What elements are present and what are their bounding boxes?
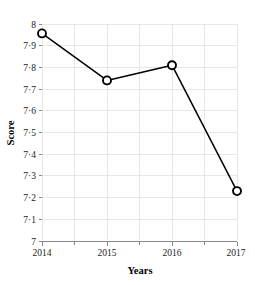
y-tick-label-7-3: 7·3 xyxy=(23,171,36,181)
y-tick-label-8: 8 xyxy=(31,20,36,30)
y-tick-label-7-7: 7·7 xyxy=(23,85,36,95)
y-tick-label-7-9: 7·9 xyxy=(23,41,36,51)
data-point-2016 xyxy=(168,61,176,69)
y-tick-label-7-2: 7·2 xyxy=(23,193,36,203)
y-axis-tick-labels: 8 7·9 7·8 7·7 7·6 7·5 7·4 7·3 7·2 7·1 7 xyxy=(23,20,36,247)
line-chart: 8 7·9 7·8 7·7 7·6 7·5 7·4 7·3 7·2 7·1 7 … xyxy=(0,0,255,285)
x-axis-tickmarks xyxy=(42,242,237,247)
data-point-2014 xyxy=(38,29,46,37)
y-tick-label-7-4: 7·4 xyxy=(23,150,36,160)
y-tick-label-7-6: 7·6 xyxy=(23,106,36,116)
chart-figure: 8 7·9 7·8 7·7 7·6 7·5 7·4 7·3 7·2 7·1 7 … xyxy=(0,0,255,285)
y-tick-label-7: 7 xyxy=(31,237,36,247)
y-axis-tickmarks xyxy=(39,24,42,241)
data-point-2015 xyxy=(103,76,111,84)
x-tick-label-2015: 2015 xyxy=(98,248,117,258)
data-point-2017 xyxy=(233,187,241,195)
y-tick-label-7-5: 7·5 xyxy=(23,128,36,138)
x-axis-tick-labels: 2014 2015 2016 2017 xyxy=(33,248,246,258)
x-tick-label-2016: 2016 xyxy=(163,248,182,258)
y-tick-label-7-8: 7·8 xyxy=(23,63,36,73)
x-axis-title: Years xyxy=(127,265,152,276)
y-axis-title: Score xyxy=(5,120,16,145)
x-tick-label-2014: 2014 xyxy=(33,248,52,258)
x-tick-label-2017: 2017 xyxy=(227,248,246,258)
y-tick-label-7-1: 7·1 xyxy=(23,215,36,225)
